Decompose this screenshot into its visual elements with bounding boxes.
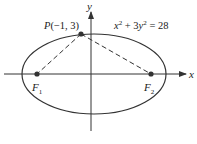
point-p: [78, 31, 83, 36]
focus-2-sub: 2: [151, 88, 155, 96]
eq-mid: + 3: [122, 20, 138, 31]
eq-rhs: = 28: [147, 20, 169, 31]
focus-1-sub: 1: [39, 88, 43, 96]
dashed-line-pf1: [37, 34, 81, 74]
point-p-label: P(−1, 3): [43, 20, 80, 32]
ellipse-diagram: y x P(−1, 3) x2 + 3y2 = 28 F1 F2: [0, 0, 197, 144]
focus-1-point: [34, 71, 39, 76]
y-axis-label: y: [86, 0, 92, 12]
focus-2-label: F2: [143, 81, 155, 96]
focus-2-point: [148, 71, 153, 76]
ellipse-equation: x2 + 3y2 = 28: [113, 19, 168, 31]
point-p-coords: (−1, 3): [50, 20, 79, 32]
focus-1-label: F1: [31, 81, 43, 96]
x-axis-label: x: [188, 68, 194, 80]
